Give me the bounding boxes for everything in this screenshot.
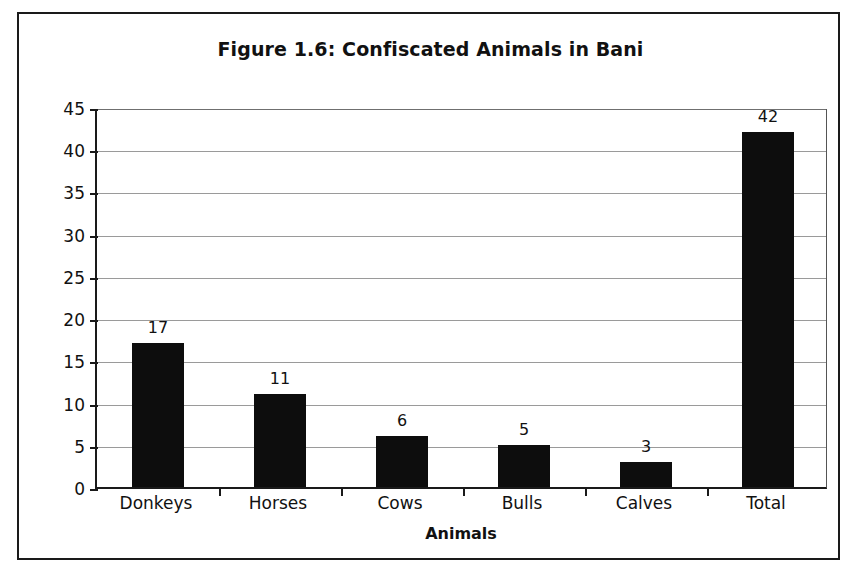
- bar-value-label: 42: [758, 107, 778, 126]
- x-axis-title: Animals: [95, 524, 827, 543]
- chart-title: Figure 1.6: Confiscated Animals in Bani: [19, 38, 842, 60]
- bar-donkeys[interactable]: [132, 343, 184, 487]
- x-axis-label-total: Total: [705, 493, 827, 513]
- y-axis-tick-label: 10: [63, 395, 85, 415]
- bar-horses[interactable]: [254, 394, 306, 487]
- x-axis-label-cows: Cows: [339, 493, 461, 513]
- plot-area: 051015202530354045 171165342: [95, 109, 827, 489]
- bar-value-label: 11: [270, 369, 290, 388]
- y-axis-tick-label: 35: [63, 183, 85, 203]
- bars-layer: 171165342: [97, 109, 826, 487]
- x-axis-label-horses: Horses: [217, 493, 339, 513]
- bar-group: 5: [463, 109, 585, 487]
- document-page-frame: Figure 1.6: Confiscated Animals in Bani …: [17, 12, 840, 560]
- x-axis-label-calves: Calves: [583, 493, 705, 513]
- bar-value-label: 5: [519, 420, 529, 439]
- y-axis-tick-label: 25: [63, 268, 85, 288]
- bar-group: 42: [707, 109, 829, 487]
- y-axis-tick-label: 30: [63, 226, 85, 246]
- x-axis-labels: DonkeysHorsesCowsBullsCalvesTotal: [95, 493, 827, 523]
- y-axis-tick-label: 15: [63, 352, 85, 372]
- x-axis-label-bulls: Bulls: [461, 493, 583, 513]
- bar-value-label: 17: [148, 318, 168, 337]
- y-axis-tick-label: 45: [63, 99, 85, 119]
- bar-value-label: 3: [641, 437, 651, 456]
- y-axis-tick-mark: [90, 489, 98, 491]
- bar-total[interactable]: [742, 132, 794, 487]
- y-axis-tick-label: 5: [74, 437, 85, 457]
- bar-group: 3: [585, 109, 707, 487]
- bar-group: 17: [97, 109, 219, 487]
- y-axis-tick-label: 0: [74, 479, 85, 499]
- bar-cows[interactable]: [376, 436, 428, 487]
- bar-group: 6: [341, 109, 463, 487]
- y-axis-tick-label: 40: [63, 141, 85, 161]
- bar-calves[interactable]: [620, 462, 672, 487]
- y-axis-tick-label: 20: [63, 310, 85, 330]
- bar-value-label: 6: [397, 411, 407, 430]
- x-axis-label-donkeys: Donkeys: [95, 493, 217, 513]
- bar-bulls[interactable]: [498, 445, 550, 487]
- bar-group: 11: [219, 109, 341, 487]
